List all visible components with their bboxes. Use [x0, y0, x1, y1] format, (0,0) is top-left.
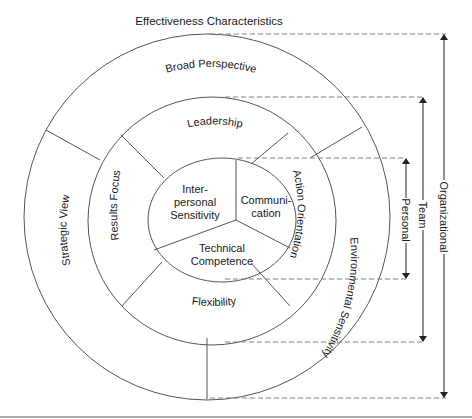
svg-text:personal: personal [174, 196, 216, 208]
svg-text:Communi-: Communi- [241, 194, 292, 206]
outer-divider-left [46, 130, 100, 160]
middle-divider-upper-left [121, 135, 164, 178]
segment-action-orientation: Action Orientation [288, 168, 308, 260]
segment-communication: Communi- cation [241, 194, 292, 219]
personal-label: Personal [400, 198, 412, 241]
segment-broad-perspective: Broad Perspective [164, 57, 258, 75]
middle-divider-lower-right [251, 263, 290, 306]
segment-technical-competence: Technical Competence [191, 242, 253, 267]
middle-divider-upper-right [251, 133, 288, 164]
middle-divider-lower-left [122, 262, 162, 306]
team-scale: Team [417, 100, 429, 339]
outer-divider-right [310, 127, 362, 158]
organizational-scale: Organizational [438, 37, 450, 395]
diagram-title: Effectiveness Characteristics [135, 15, 283, 27]
svg-text:Sensitivity: Sensitivity [170, 209, 220, 221]
svg-text:Technical: Technical [199, 242, 245, 254]
segment-interpersonal-sensitivity: Inter- personal Sensitivity [170, 183, 220, 221]
svg-text:Competence: Competence [191, 255, 253, 267]
bottom-rule [0, 416, 472, 418]
effectiveness-characteristics-diagram: Effectiveness Characteristics Broad Pers… [0, 0, 472, 419]
segment-strategic-view: Strategic View [56, 194, 72, 267]
svg-text:cation: cation [251, 207, 280, 219]
segment-flexibility: Flexibility [191, 294, 237, 308]
organizational-label: Organizational [438, 182, 450, 253]
team-label: Team [417, 202, 429, 229]
segment-leadership: Leadership [186, 114, 244, 129]
personal-scale: Personal [400, 161, 412, 276]
segment-results-focus: Results Focus [107, 169, 122, 241]
svg-text:Inter-: Inter- [182, 183, 208, 195]
